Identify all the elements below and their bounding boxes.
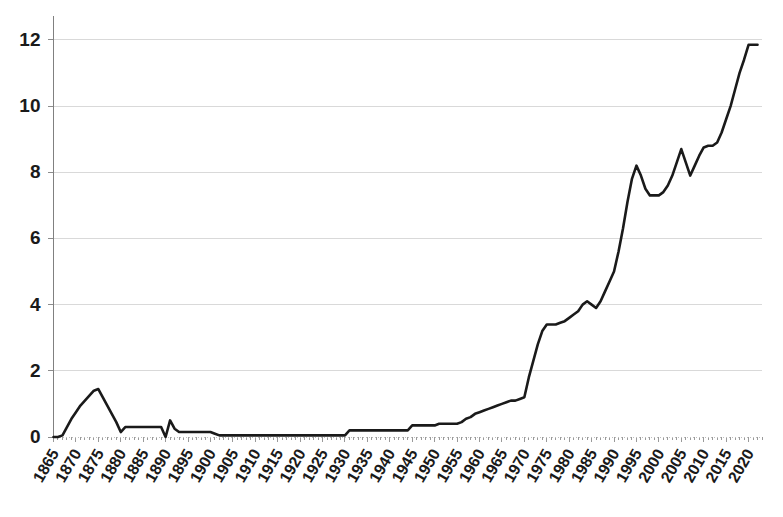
chart-background: [0, 0, 783, 517]
y-axis-tick-label: 4: [30, 294, 41, 315]
line-chart: 024681012 186518701875188018851890189519…: [0, 0, 783, 517]
y-axis-tick-label: 2: [30, 360, 41, 381]
y-axis-tick-label: 8: [30, 161, 41, 182]
y-axis-tick-label: 12: [19, 29, 40, 50]
y-axis-tick-label: 0: [30, 426, 41, 447]
y-axis-tick-label: 6: [30, 227, 41, 248]
chart-canvas: 024681012 186518701875188018851890189519…: [0, 0, 783, 517]
y-axis-tick-label: 10: [19, 95, 40, 116]
